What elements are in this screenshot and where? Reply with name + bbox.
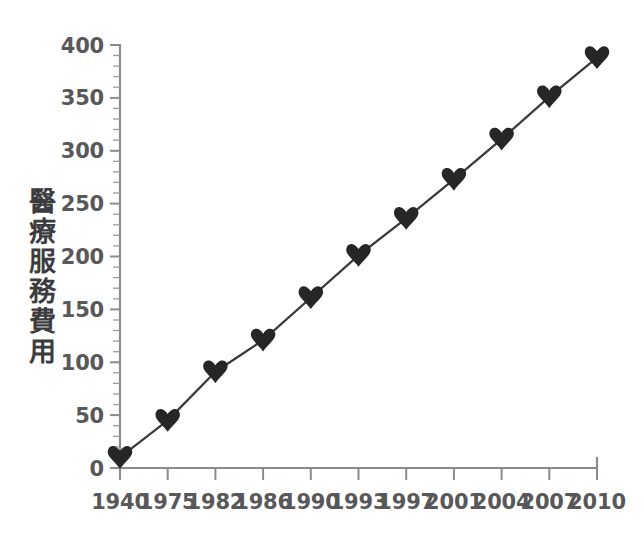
y-tick-label: 200	[61, 245, 104, 269]
chart-container: 醫 療 服 務 費 用	[0, 0, 644, 548]
chart-plot: 0 50 100 150 200 250 300 350 400 1940 19…	[0, 0, 644, 548]
x-axis-ticks	[120, 468, 597, 480]
y-tick-label: 150	[61, 298, 104, 322]
data-series	[108, 46, 610, 468]
y-axis-tick-labels: 0 50 100 150 200 250 300 350 400	[61, 34, 104, 481]
y-tick-label: 300	[61, 139, 104, 163]
y-tick-label: 250	[61, 192, 104, 216]
y-tick-label: 50	[75, 404, 104, 428]
y-tick-label: 400	[61, 34, 104, 58]
data-point-heart-marker	[251, 329, 276, 352]
x-tick-label: 2010	[568, 490, 626, 514]
y-tick-label: 100	[61, 351, 104, 375]
x-axis-tick-labels: 1940 1975 1982 1986 1990 1993 1997 2001 …	[91, 490, 626, 514]
y-tick-label: 0	[90, 457, 104, 481]
y-tick-label: 350	[61, 86, 104, 110]
